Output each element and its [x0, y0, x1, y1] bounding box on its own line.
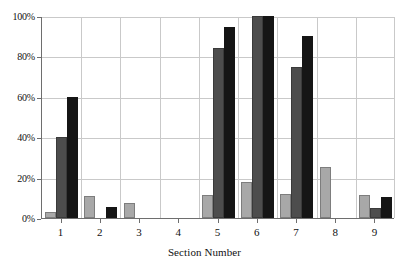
y-axis-tick-label: 100% — [1, 12, 35, 22]
bar — [280, 194, 291, 218]
plot-area — [41, 17, 394, 219]
bar — [291, 67, 302, 219]
bar — [84, 196, 95, 218]
bar-group — [356, 17, 395, 218]
bar — [370, 208, 381, 218]
x-axis-tick-mark — [61, 219, 62, 223]
x-axis-tick-label: 9 — [359, 226, 389, 239]
bar — [202, 195, 213, 218]
bar — [381, 197, 392, 218]
y-axis-tick-label: 20% — [1, 174, 35, 184]
x-axis-tick-mark — [374, 219, 375, 223]
bar — [302, 36, 313, 218]
x-axis-tick-label: 2 — [85, 226, 115, 239]
y-axis-tick-label: 0% — [1, 214, 35, 224]
bar-group — [160, 17, 199, 218]
bar-group — [277, 17, 316, 218]
x-axis-tick-mark — [139, 219, 140, 223]
x-axis-tick-mark — [178, 219, 179, 223]
y-axis-tick-label: 80% — [1, 52, 35, 62]
bar — [241, 182, 252, 218]
x-axis-tick-mark — [296, 219, 297, 223]
bar-group — [199, 17, 238, 218]
bar — [106, 207, 117, 218]
bar — [224, 27, 235, 218]
bar-group — [317, 17, 356, 218]
x-axis-tick-mark — [335, 219, 336, 223]
bar — [124, 203, 135, 218]
x-axis-tick-label: 8 — [320, 226, 350, 239]
bar — [320, 167, 331, 219]
bar — [45, 212, 56, 218]
bar — [67, 97, 78, 218]
y-axis-tick-label: 40% — [1, 133, 35, 143]
bar — [213, 48, 224, 218]
x-axis-tick-mark — [100, 219, 101, 223]
bar-group — [42, 17, 81, 218]
bar-group — [120, 17, 159, 218]
bar — [263, 16, 274, 218]
x-axis-tick-label: 7 — [281, 226, 311, 239]
x-axis-tick-label: 5 — [203, 226, 233, 239]
x-axis-tick-label: 6 — [242, 226, 272, 239]
bar — [252, 16, 263, 218]
bar — [359, 195, 370, 218]
x-axis-tick-label: 4 — [163, 226, 193, 239]
x-axis-title: Section Number — [0, 246, 409, 259]
bar-group — [81, 17, 120, 218]
bar — [56, 137, 67, 218]
bar-group — [238, 17, 277, 218]
bar-chart: 0%20%40%60%80%100% 123456789 Section Num… — [0, 0, 409, 271]
x-axis-tick-label: 1 — [46, 226, 76, 239]
x-axis-tick-label: 3 — [124, 226, 154, 239]
x-axis-tick-mark — [218, 219, 219, 223]
y-axis-tick-label: 60% — [1, 93, 35, 103]
y-axis-tick-mark — [37, 219, 41, 220]
x-axis-tick-mark — [257, 219, 258, 223]
